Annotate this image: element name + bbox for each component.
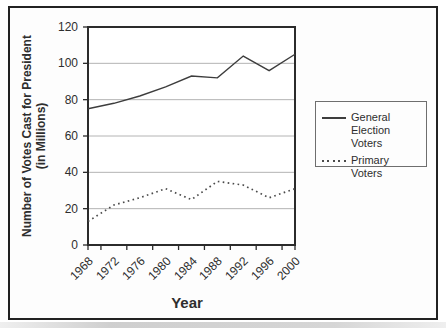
y-axis-title-line1: Number of Votes Cast for President bbox=[20, 6, 34, 266]
x-axis-title: Year bbox=[92, 294, 282, 311]
solid-line-swatch-icon bbox=[322, 117, 346, 119]
y-axis-title-line2: (in Millions) bbox=[34, 6, 48, 266]
figure-page: 020406080100120 196819721976198019841988… bbox=[0, 0, 446, 328]
dotted-line-swatch-icon bbox=[322, 160, 346, 162]
legend: General Election Voters Primary Voters bbox=[315, 101, 427, 167]
legend-entry-general-election-voters: General Election Voters bbox=[322, 111, 423, 150]
y-axis-title: Number of Votes Cast for President (in M… bbox=[20, 6, 48, 266]
legend-entry-primary-voters: Primary Voters bbox=[322, 154, 423, 180]
page-scan-edge bbox=[0, 322, 446, 328]
legend-label-general-election-voters: General Election Voters bbox=[351, 111, 423, 150]
legend-label-primary-voters: Primary Voters bbox=[351, 154, 423, 180]
